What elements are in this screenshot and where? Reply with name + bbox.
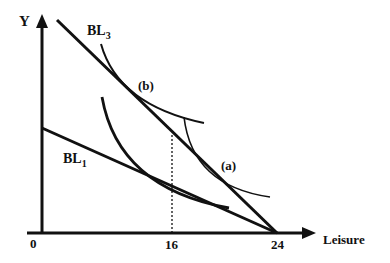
point-a-label: (a) [221,158,236,173]
x-axis-label: Leisure [323,232,365,247]
bl3-label: BL3 [87,23,111,41]
x-tick-16: 16 [165,237,179,252]
x-axis-arrow-icon [302,227,316,239]
y-axis-label: Y [19,13,30,29]
indifference-curve-lower [102,97,229,208]
origin-label: 0 [30,236,37,251]
x-tick-24: 24 [271,237,285,252]
y-axis-arrow-icon [36,14,48,28]
point-b-label: (b) [138,78,154,93]
budget-line-bl1 [42,128,277,233]
labor-leisure-diagram: Y 0 16 24 Leisure BL3 BL1 (b) (a) [0,0,390,263]
axes [27,14,316,239]
bl1-label: BL1 [63,151,87,169]
budget-line-bl3 [57,20,277,233]
